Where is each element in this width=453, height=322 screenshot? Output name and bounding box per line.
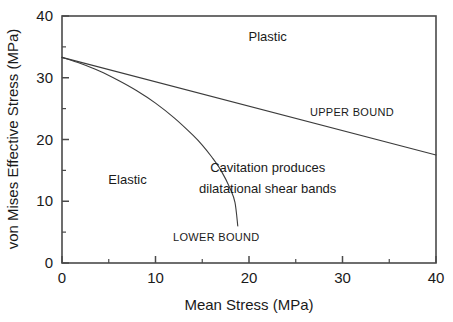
annotation-cavitation-line1: Cavitation produces: [210, 160, 325, 175]
region-label-elastic: Elastic: [108, 172, 147, 187]
y-tick-label: 10: [36, 192, 53, 209]
x-tick-label: 10: [147, 269, 164, 286]
x-tick-label: 40: [428, 269, 445, 286]
x-axis-title: Mean Stress (MPa): [184, 296, 313, 313]
x-axis-ticks: [62, 256, 436, 263]
x-tick-label: 30: [334, 269, 351, 286]
x-tick-label: 0: [58, 269, 66, 286]
data-curves: [62, 57, 436, 226]
region-label-plastic: Plastic: [249, 29, 288, 44]
stress-state-chart: 010203040 010203040 Plastic Elastic UPPE…: [0, 0, 453, 322]
y-axis-ticks: [62, 16, 69, 263]
plot-frame: [62, 16, 436, 263]
x-axis-tick-labels: 010203040: [58, 269, 445, 286]
lower-bound-curve: [62, 57, 238, 226]
y-tick-label: 30: [36, 69, 53, 86]
plot-area-border: [62, 16, 436, 263]
annotation-upper-bound: UPPER BOUND: [310, 106, 394, 118]
y-axis-title: von Mises Effective Stress (MPa): [4, 29, 21, 250]
y-tick-label: 0: [45, 254, 53, 271]
annotation-cavitation-line2: dilatational shear bands: [199, 181, 337, 196]
annotation-lower-bound: LOWER BOUND: [173, 231, 259, 243]
y-axis-tick-labels: 010203040: [36, 7, 53, 271]
chart-canvas: 010203040 010203040 Plastic Elastic UPPE…: [0, 0, 453, 322]
y-tick-label: 20: [36, 131, 53, 148]
y-tick-label: 40: [36, 7, 53, 24]
x-tick-label: 20: [241, 269, 258, 286]
